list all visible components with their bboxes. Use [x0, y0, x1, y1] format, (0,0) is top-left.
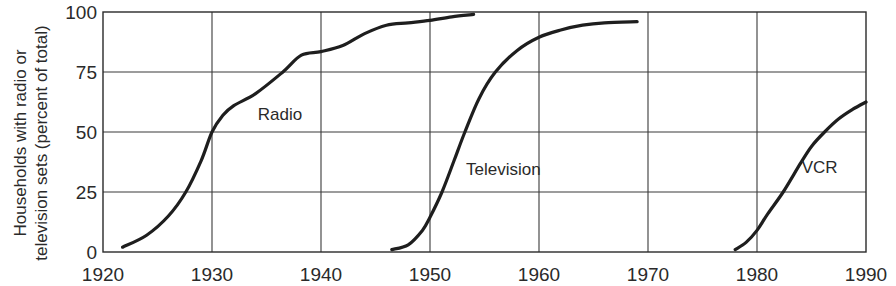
television-curve — [392, 22, 637, 250]
y-axis-ticks: 0255075100 — [65, 2, 97, 263]
x-tick-label: 1930 — [191, 264, 233, 285]
y-axis-title-line-1: Households with radio or — [11, 49, 30, 236]
x-tick-label: 1960 — [518, 264, 560, 285]
x-tick-label: 1990 — [845, 264, 887, 285]
y-tick-label: 25 — [76, 182, 97, 203]
y-tick-label: 50 — [76, 122, 97, 143]
vcr-series-label: VCR — [802, 158, 838, 177]
y-tick-label: 100 — [65, 2, 97, 23]
x-tick-label: 1950 — [409, 264, 451, 285]
x-tick-label: 1980 — [736, 264, 778, 285]
y-tick-label: 0 — [86, 242, 97, 263]
y-axis-title: Households with radio or television sets… — [11, 25, 51, 260]
vcr-curve — [735, 102, 866, 250]
radio-series-label: Radio — [258, 105, 302, 124]
x-tick-label: 1940 — [300, 264, 342, 285]
television-series-label: Television — [466, 160, 541, 179]
series-labels: RadioTelevisionVCR — [258, 105, 838, 179]
adoption-line-chart: 19201930194019501960197019801990 0255075… — [0, 0, 896, 286]
y-tick-label: 75 — [76, 62, 97, 83]
radio-curve — [123, 14, 474, 247]
x-tick-label: 1920 — [82, 264, 124, 285]
gridlines — [103, 12, 866, 252]
y-axis-title-line-2: television sets (percent of total) — [32, 25, 51, 260]
x-tick-label: 1970 — [627, 264, 669, 285]
x-axis-ticks: 19201930194019501960197019801990 — [82, 264, 887, 285]
